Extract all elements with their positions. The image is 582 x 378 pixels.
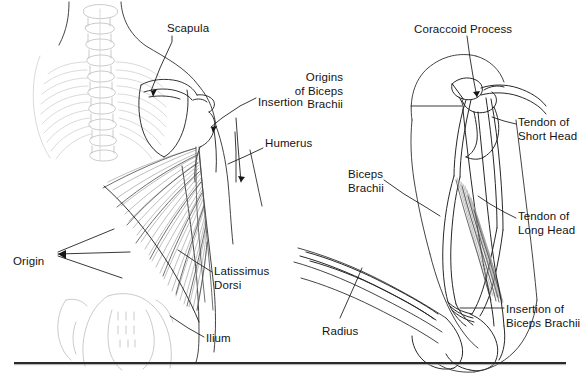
vertebral-column xyxy=(84,5,118,161)
label-tendon-of-short-head: Tendon of Short Head xyxy=(518,116,577,143)
label-tendon-of-long-head: Tendon of Long Head xyxy=(518,210,575,237)
shoulder-outline xyxy=(411,55,504,255)
label-insertion-of-biceps-brachii: Insertion of Biceps Brachii xyxy=(506,303,580,330)
label-origin: Origin xyxy=(13,255,44,269)
label-latissimus-dorsi: Latissimus Dorsi xyxy=(214,265,269,292)
humerus-bone xyxy=(195,112,217,182)
label-scapula: Scapula xyxy=(167,22,209,36)
neck-and-shoulder-outline xyxy=(59,2,216,126)
label-biceps-brachii: Biceps Brachii xyxy=(348,168,384,195)
bottom-divider-rule xyxy=(14,362,566,365)
label-coraccoid-process: Coraccoid Process xyxy=(414,23,512,37)
label-radius: Radius xyxy=(322,325,358,339)
pelvis-bone xyxy=(58,294,173,370)
ribcage-left xyxy=(33,56,91,159)
label-ilium: Ilium xyxy=(206,332,231,346)
ribcage-right xyxy=(116,62,167,159)
anatomy-figure: .ink { fill:none; stroke:#1d1d1d; stroke… xyxy=(0,0,582,378)
forearm-outline xyxy=(294,248,446,343)
left-panel-arrowheads xyxy=(58,89,245,259)
anatomy-artwork: .ink { fill:none; stroke:#1d1d1d; stroke… xyxy=(0,0,582,378)
biceps-distal-tendon xyxy=(448,302,474,322)
left-panel-artwork xyxy=(33,2,263,370)
radius-bone xyxy=(306,252,438,319)
label-humerus: Humerus xyxy=(265,137,312,151)
biceps-muscle-outline xyxy=(443,176,503,326)
label-origins-of-biceps-brachii: Origins of Biceps Brachii xyxy=(263,71,343,112)
